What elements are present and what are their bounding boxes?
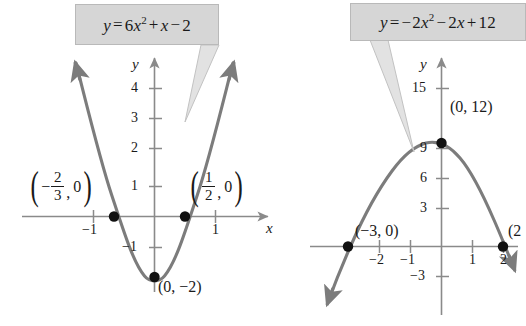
right-y-intercept-dot	[436, 138, 446, 148]
eq-plus: +	[465, 13, 479, 32]
left-y-axis-label: y	[132, 56, 139, 73]
right-ytick-6: 6	[420, 170, 427, 186]
left-equation-callout: y=6x2+x−2	[75, 4, 219, 45]
right-root-a-label: (−3, 0)	[355, 222, 399, 240]
left-ytick-2: 2	[131, 140, 138, 156]
right-y-axis-label: y	[420, 56, 427, 73]
frac-sign: −	[41, 179, 50, 195]
eq-exponent: 2	[141, 14, 147, 26]
right-y-ticks	[436, 89, 449, 277]
left-ytick-1: 1	[131, 178, 138, 194]
left-root-a-label: ( − 2 3 , 0 )	[28, 170, 95, 203]
right-root-b-label: (2	[508, 222, 521, 240]
left-y-ticks	[149, 89, 162, 248]
left-equation-text: y=6x2+x−2	[103, 14, 191, 36]
eq-minus2: −	[435, 13, 449, 32]
right-root-a-dot	[343, 241, 353, 251]
left-ytick-neg1: −1	[122, 239, 137, 255]
right-xtick-neg1: −1	[400, 252, 415, 268]
fraction: 2 3	[51, 170, 64, 203]
eq-equals: =	[388, 13, 402, 32]
left-xtick-neg1: −1	[82, 222, 97, 238]
eq-var2: x	[457, 13, 465, 32]
comma: ,	[66, 185, 70, 203]
coord-y: 0	[224, 179, 232, 195]
left-root-b-dot	[180, 211, 190, 221]
right-ytick-9: 9	[420, 140, 427, 156]
right-y-intercept-label: (0, 12)	[450, 98, 493, 116]
left-xtick-1: 1	[212, 222, 219, 238]
left-root-a-dot	[109, 211, 119, 221]
eq-lhs: y	[380, 13, 388, 32]
eq-const: 12	[479, 13, 496, 32]
fraction: 1 2	[202, 170, 215, 203]
left-ytick-3: 3	[131, 110, 138, 126]
paren-open: (	[191, 172, 199, 201]
right-equation-text: y=−2x2−2x+12	[380, 11, 496, 33]
left-ytick-4: 4	[131, 80, 138, 96]
fraction-numerator: 2	[54, 170, 62, 186]
eq-const: 2	[182, 15, 191, 34]
left-vertex-label: (0, −2)	[158, 278, 202, 296]
eq-plus: +	[147, 15, 161, 34]
right-ytick-neg3: −3	[410, 268, 425, 284]
fraction-denominator: 2	[205, 187, 213, 203]
left-x-axis-label: x	[266, 220, 273, 237]
paren-close: )	[235, 172, 243, 201]
eq-minus: −	[168, 15, 182, 34]
left-callout-pointer	[185, 45, 219, 122]
paren-close: )	[84, 172, 92, 201]
eq-minus1: −	[402, 13, 413, 32]
eq-equals: =	[111, 15, 125, 34]
right-ytick-15: 15	[412, 80, 426, 96]
right-equation-callout: y=−2x2−2x+12	[350, 3, 526, 41]
comma: ,	[217, 185, 221, 203]
eq-exponent: 2	[429, 11, 435, 23]
eq-coef: 2	[412, 13, 421, 32]
right-xtick-1: 1	[469, 252, 476, 268]
eq-var: x	[133, 15, 141, 34]
right-callout-pointer	[370, 40, 414, 152]
right-xtick-neg2: −2	[369, 252, 384, 268]
coord-y: 0	[73, 179, 81, 195]
right-ytick-3: 3	[420, 200, 427, 216]
right-root-b-dot	[498, 241, 508, 251]
eq-coef2: 2	[448, 13, 457, 32]
fraction-denominator: 3	[54, 187, 62, 203]
eq-lhs: y	[103, 15, 111, 34]
eq-var: x	[421, 13, 429, 32]
right-xtick-2: 2	[500, 252, 507, 268]
left-root-b-label: ( 1 2 , 0 )	[188, 170, 246, 203]
paren-open: (	[31, 172, 39, 201]
fraction-numerator: 1	[205, 170, 213, 186]
